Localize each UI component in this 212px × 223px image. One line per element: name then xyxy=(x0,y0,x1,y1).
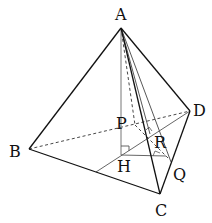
label-B: B xyxy=(9,142,21,161)
line-HQ xyxy=(121,155,166,156)
label-A: A xyxy=(114,5,127,24)
label-R: R xyxy=(154,133,167,152)
tetrahedron-diagram: A B C D P H R Q xyxy=(0,0,212,223)
label-P: P xyxy=(116,114,127,133)
right-angle-H xyxy=(121,146,129,151)
label-C: C xyxy=(155,201,167,220)
diagram-canvas: A B C D P H R Q xyxy=(0,0,212,223)
edge-AB xyxy=(29,28,121,149)
label-H: H xyxy=(117,157,131,176)
label-D: D xyxy=(193,101,206,120)
label-Q: Q xyxy=(173,165,186,184)
